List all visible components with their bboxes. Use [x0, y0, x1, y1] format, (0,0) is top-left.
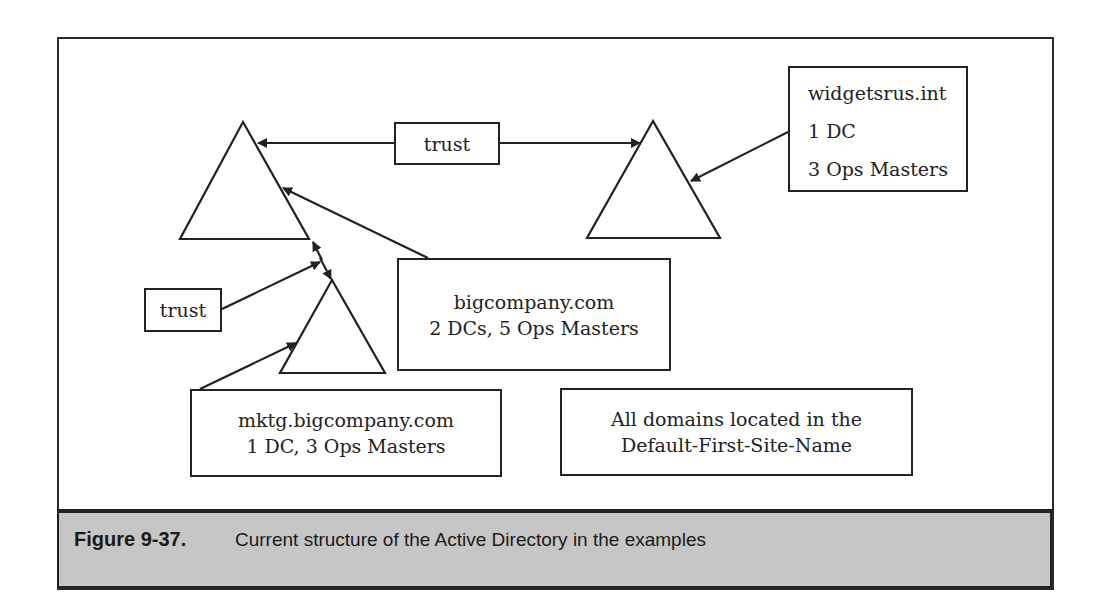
- trust-label-left-text: trust: [160, 297, 206, 323]
- trust-label-left: trust: [144, 288, 222, 332]
- mktg-details: 1 DC, 3 Ops Masters: [246, 433, 445, 459]
- domain-triangle-widgetsrus: [587, 121, 720, 238]
- trust-label-top: trust: [394, 122, 500, 165]
- figure-number: Figure 9-37.: [74, 528, 186, 551]
- figure-caption-text: Current structure of the Active Director…: [235, 529, 706, 551]
- site-note-box: All domains located in the Default-First…: [560, 388, 913, 476]
- site-note-line1: All domains located in the: [611, 406, 862, 432]
- site-note-line2: Default-First-Site-Name: [621, 432, 852, 458]
- bigcompany-details: 2 DCs, 5 Ops Masters: [429, 315, 639, 341]
- figure-caption: Figure 9-37. Current structure of the Ac…: [57, 509, 1052, 588]
- mktg-name: mktg.bigcompany.com: [238, 407, 454, 433]
- parent-child-link: [313, 242, 322, 260]
- mktg-info-box: mktg.bigcompany.com 1 DC, 3 Ops Masters: [190, 389, 502, 477]
- widgetsrus-ops-masters: 3 Ops Masters: [808, 150, 966, 188]
- mktg-label-arrow: [200, 343, 296, 389]
- bigcompany-name: bigcompany.com: [454, 289, 615, 315]
- widgetsrus-label-arrow: [691, 132, 788, 181]
- parent-child-link-down: [320, 258, 331, 279]
- domain-triangle-bigcompany: [180, 122, 309, 239]
- bigcompany-info-box: bigcompany.com 2 DCs, 5 Ops Masters: [397, 258, 671, 371]
- domain-triangle-mktg: [280, 280, 385, 373]
- widgetsrus-name: widgetsrus.int: [808, 74, 966, 112]
- widgetsrus-dc-count: 1 DC: [808, 112, 966, 150]
- trust-arrow-parent-child: [222, 262, 320, 309]
- bigcompany-label-arrow: [283, 188, 428, 258]
- widgetsrus-info-box: widgetsrus.int 1 DC 3 Ops Masters: [788, 66, 968, 192]
- trust-label-top-text: trust: [424, 131, 470, 157]
